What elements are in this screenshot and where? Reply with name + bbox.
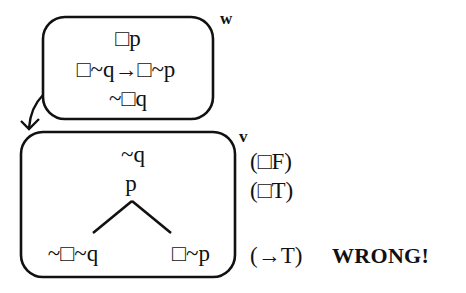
world-w-line-2: □~q→□~p [77,58,176,81]
branch-right-line [132,201,171,233]
world-w-line-1: □p [115,27,140,50]
world-v-line-2: p [125,172,137,195]
world-w-line-3: ~□q [109,87,147,110]
world-v-line-1: ~q [121,143,145,166]
branch-left-line [93,201,132,233]
world-w-label: w [220,10,232,27]
modal-logic-tree-diagram: □p □~q→□~p ~□q w ~q p ~□~q □~p v (□F) (□… [0,0,466,293]
world-v-label: v [239,128,248,145]
world-v-branch-right: □~p [172,242,210,265]
world-v-branch-left: ~□~q [48,242,98,265]
verdict-label: WRONG! [332,245,429,267]
justification-box-t: (□T) [250,179,293,202]
justification-box-f: (□F) [250,150,292,173]
justification-arrow-t: (→T) [250,244,302,267]
